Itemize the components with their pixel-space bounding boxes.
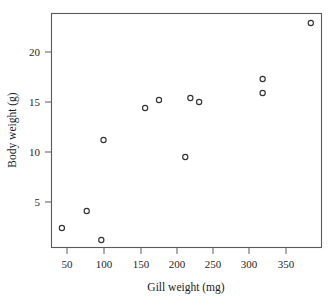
x-axis-tick-labels: 50 100 150 200 250 300 350 [62, 258, 295, 270]
data-point [197, 99, 202, 104]
data-point [188, 95, 193, 100]
data-points-layer [59, 20, 313, 242]
plot-frame [52, 14, 322, 248]
data-point [183, 154, 188, 159]
data-point [143, 105, 148, 110]
data-point [260, 90, 265, 95]
y-axis-tick-labels: 5 10 15 20 [29, 46, 41, 208]
data-point [260, 76, 265, 81]
x-axis-title: Gill weight (mg) [147, 281, 224, 294]
y-tick-label: 5 [35, 196, 41, 208]
x-tick-label: 300 [241, 258, 258, 270]
data-point [101, 137, 106, 142]
scatter-plot-figure: 50 100 150 200 250 300 350 5 10 15 20 Gi… [0, 0, 331, 300]
y-tick-label: 10 [29, 146, 41, 158]
y-tick-label: 15 [29, 96, 41, 108]
data-point [99, 237, 104, 242]
y-axis-title: Body weight (g) [6, 92, 19, 168]
y-tick-label: 20 [29, 46, 41, 58]
data-point [59, 225, 64, 230]
x-tick-label: 250 [205, 258, 222, 270]
data-point [308, 20, 313, 25]
plot-canvas: 50 100 150 200 250 300 350 5 10 15 20 Gi… [0, 0, 331, 300]
x-tick-label: 150 [133, 258, 150, 270]
data-point [156, 97, 161, 102]
x-axis-ticks [67, 248, 286, 254]
x-tick-label: 50 [62, 258, 74, 270]
data-point [84, 208, 89, 213]
x-tick-label: 350 [278, 258, 295, 270]
x-tick-label: 200 [169, 258, 186, 270]
y-axis-ticks [45, 52, 51, 202]
x-tick-label: 100 [96, 258, 113, 270]
